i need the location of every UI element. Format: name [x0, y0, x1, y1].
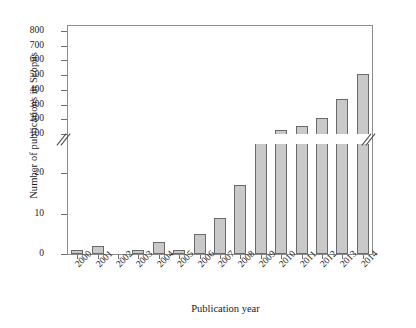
bar-2011 — [296, 126, 308, 254]
y-tick-label-200: 200 — [4, 115, 44, 125]
y-tick-label-100: 100 — [4, 129, 44, 139]
bar-2003 — [132, 250, 144, 254]
y-tick-label-400: 400 — [4, 85, 44, 95]
bar-2004 — [153, 242, 165, 254]
y-tick-label-10: 10 — [4, 209, 44, 219]
bar-2007 — [214, 218, 226, 254]
y-tick-mark-0 — [61, 254, 67, 255]
y-tick-mark-600 — [61, 60, 67, 61]
axis-break-band — [68, 134, 372, 144]
y-tick-label-0: 0 — [4, 249, 44, 259]
chart-figure: Number of publications in Scopus Publica… — [0, 0, 416, 328]
bar-2000 — [71, 250, 83, 254]
x-axis-title: Publication year — [0, 303, 416, 314]
y-tick-mark-20 — [61, 173, 67, 174]
y-tick-label-600: 600 — [4, 56, 44, 66]
y-tick-mark-300 — [61, 105, 67, 106]
bar-2006 — [194, 234, 206, 254]
bar-2013 — [336, 99, 348, 254]
bar-2010 — [275, 130, 287, 254]
y-tick-mark-200 — [61, 119, 67, 120]
bar-2009 — [255, 134, 267, 254]
bar-2014 — [357, 74, 369, 254]
y-tick-mark-800 — [61, 31, 67, 32]
y-tick-mark-10 — [61, 214, 67, 215]
y-tick-label-20: 20 — [4, 168, 44, 178]
bar-2008 — [234, 185, 246, 254]
y-tick-label-500: 500 — [4, 70, 44, 80]
y-tick-mark-700 — [61, 46, 67, 47]
y-tick-label-300: 300 — [4, 100, 44, 110]
bar-2005 — [173, 250, 185, 254]
axis-break-slash-right — [366, 132, 380, 146]
bar-2001 — [92, 246, 104, 254]
y-tick-label-700: 700 — [4, 41, 44, 51]
y-tick-label-800: 800 — [4, 26, 44, 36]
y-tick-mark-400 — [61, 90, 67, 91]
axis-break-slash-left — [61, 132, 75, 146]
y-tick-mark-500 — [61, 75, 67, 76]
